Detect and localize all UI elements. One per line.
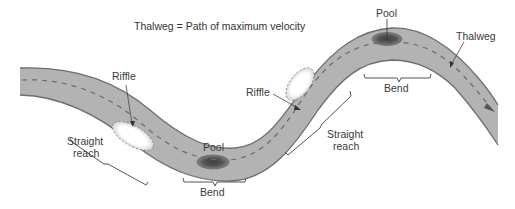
label-straight-left-2: reach xyxy=(73,147,99,159)
meander-diagram: Thalweg = Path of maximum velocity Riffl… xyxy=(0,0,515,209)
label-thalweg: Thalweg xyxy=(456,30,496,42)
label-riffle-left: Riffle xyxy=(112,70,136,82)
diagram-title: Thalweg = Path of maximum velocity xyxy=(134,20,306,32)
label-pool-top: Pool xyxy=(376,7,397,19)
label-bend-bottom: Bend xyxy=(200,186,225,198)
label-straight-right-2: reach xyxy=(333,140,359,152)
label-bend-top: Bend xyxy=(384,82,409,94)
label-straight-left-1: Straight xyxy=(67,135,103,147)
brace-bend-top xyxy=(364,74,431,82)
label-pool-bottom: Pool xyxy=(203,141,224,153)
label-riffle-right: Riffle xyxy=(246,86,270,98)
label-straight-right-1: Straight xyxy=(327,128,363,140)
